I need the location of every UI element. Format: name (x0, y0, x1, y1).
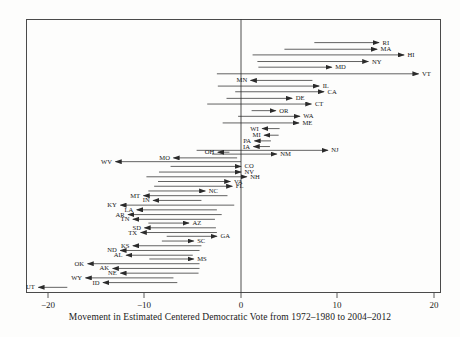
state-label-WY: WY (71, 275, 82, 282)
state-label-GA: GA (220, 233, 230, 240)
state-label-HI: HI (408, 52, 415, 59)
state-label-KY: KY (107, 202, 117, 209)
state-label-CA: CA (327, 88, 336, 95)
state-label-KS: KS (121, 242, 129, 249)
state-label-IN: IN (143, 197, 150, 204)
state-label-MT: MT (130, 192, 140, 199)
state-label-TX: TX (128, 229, 137, 236)
state-label-CT: CT (315, 101, 323, 108)
state-label-FL: FL (236, 183, 244, 190)
state-label-NC: NC (209, 188, 218, 195)
state-label-IA: IA (243, 143, 250, 150)
state-label-NM: NM (280, 151, 291, 158)
state-label-VT: VT (422, 71, 431, 78)
state-label-ME: ME (302, 120, 312, 127)
state-label-TN: TN (121, 216, 130, 223)
state-label-MO: MO (159, 155, 170, 162)
axis-tick-label-20: 20 (430, 300, 439, 310)
state-label-MS: MS (197, 256, 207, 263)
state-label-NJ: NJ (331, 147, 338, 154)
state-label-DE: DE (296, 95, 305, 102)
state-label-UT: UT (26, 284, 35, 291)
axis-tick-label--20: −20 (41, 300, 55, 310)
state-label-AL: AL (114, 252, 123, 259)
state-label-SC: SC (197, 238, 205, 245)
state-label-ID: ID (93, 279, 100, 286)
axis-tick-label-0: 0 (239, 300, 244, 310)
state-label-AZ: AZ (192, 220, 201, 227)
state-label-MA: MA (381, 46, 392, 53)
x-axis-caption: Movement in Estimated Centered Democrati… (0, 312, 460, 322)
figure-arrow-plot: −20−1001020 RIMAHINYMDVTMNILCADECTORWAME… (0, 0, 460, 337)
state-label-NE: NE (108, 270, 117, 277)
state-label-MI: MI (253, 132, 261, 139)
state-label-NY: NY (372, 58, 382, 65)
state-label-OK: OK (75, 260, 85, 267)
axis-tick-label--10: −10 (137, 300, 151, 310)
state-label-LA: LA (124, 207, 133, 214)
axis-tick-marks (48, 293, 434, 298)
axis-tick-label-10: 10 (333, 300, 342, 310)
state-label-WV: WV (101, 158, 112, 165)
state-label-OH: OH (205, 149, 215, 156)
state-label-NH: NH (250, 173, 260, 180)
state-label-MD: MD (335, 64, 346, 71)
state-label-MN: MN (237, 77, 248, 84)
state-label-OR: OR (279, 107, 288, 114)
